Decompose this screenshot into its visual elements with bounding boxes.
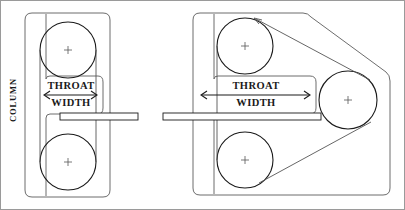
- right-lower-wheel-center-mark: [241, 156, 249, 164]
- diagram-page: COLUMN THROAT WIDTH THROAT WIDTH: [0, 0, 405, 210]
- left-upper-wheel-center-mark: [64, 46, 72, 54]
- right-width-label: WIDTH: [200, 97, 312, 108]
- left-width-label: WIDTH: [43, 97, 99, 108]
- right-blade-lower-run: [259, 122, 371, 183]
- left-lower-wheel-center-mark: [64, 158, 72, 166]
- right-third-wheel-center-mark: [344, 96, 352, 104]
- right-upper-wheel-center-mark: [241, 42, 249, 50]
- column-label: COLUMN: [8, 67, 18, 133]
- left-table-bar: [60, 113, 138, 120]
- right-throat-label: THROAT: [200, 80, 312, 91]
- left-throat-label: THROAT: [43, 80, 99, 91]
- right-table-bar: [163, 113, 321, 120]
